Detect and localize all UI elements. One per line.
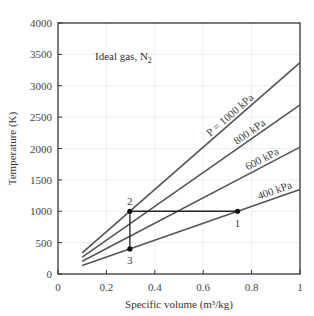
x-tick-label: 0.6 xyxy=(196,281,210,293)
x-tick-label: 0.4 xyxy=(148,281,162,293)
state-point xyxy=(235,209,240,214)
x-tick-label: 0.2 xyxy=(100,281,114,293)
y-tick-label: 2500 xyxy=(30,111,53,123)
series-line xyxy=(82,105,300,257)
x-tick-label: 0.8 xyxy=(245,281,259,293)
x-tick-label: 0 xyxy=(55,281,61,293)
y-tick-label: 1000 xyxy=(30,205,53,217)
y-tick-label: 3500 xyxy=(30,48,53,60)
y-axis-label: Temperature (K) xyxy=(6,111,19,185)
x-axis-label: Specific volume (m³/kg) xyxy=(125,298,233,311)
y-tick-label: 0 xyxy=(47,268,53,280)
state-point-label: 3 xyxy=(127,254,133,266)
series-line xyxy=(82,189,300,265)
x-tick-label: 1 xyxy=(297,281,303,293)
series-line xyxy=(82,147,300,261)
state-point-label: 1 xyxy=(235,217,241,229)
chart: 0500100015002000250030003500400000.20.40… xyxy=(0,0,314,316)
y-tick-label: 500 xyxy=(36,237,53,249)
series-label: 600 kPa xyxy=(243,145,280,172)
state-point-label: 2 xyxy=(127,195,133,207)
state-point xyxy=(127,246,132,251)
y-tick-label: 4000 xyxy=(30,17,53,29)
annotation: Ideal gas, N2 xyxy=(95,50,152,65)
y-tick-label: 3000 xyxy=(30,80,53,92)
y-tick-label: 1500 xyxy=(30,174,53,186)
y-tick-label: 2000 xyxy=(30,143,53,155)
state-point xyxy=(127,209,132,214)
